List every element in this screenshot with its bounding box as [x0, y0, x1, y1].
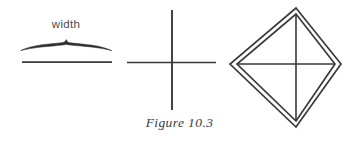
diamond-panel: [230, 8, 341, 127]
figure-caption: Figure 10.3: [0, 115, 359, 131]
width-brace: [21, 42, 112, 51]
inner-diamond: [237, 14, 335, 121]
outer-diamond: [230, 8, 341, 127]
cross-panel: [127, 10, 216, 110]
width-label: width: [0, 18, 132, 30]
figure-root: width Figure 10.3: [0, 0, 359, 141]
width-brace-panel: [21, 39, 113, 62]
